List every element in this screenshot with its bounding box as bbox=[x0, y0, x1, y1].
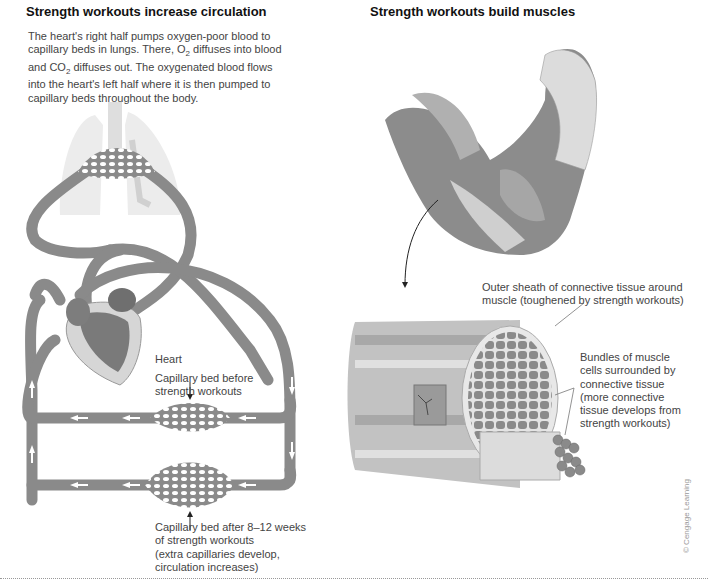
footer-dotted-rule bbox=[0, 578, 708, 579]
bundles-line-6: strength workouts) bbox=[580, 417, 681, 430]
bed-after-line-1: Capillary bed after 8–12 weeks bbox=[155, 521, 306, 534]
bundles-label: Bundles of muscle cells surrounded by co… bbox=[580, 351, 681, 431]
heart-icon bbox=[66, 288, 141, 385]
bundles-line-3: connective tissue bbox=[580, 378, 681, 391]
capillary-bed-before bbox=[150, 403, 230, 432]
bundles-line-2: cells surrounded by bbox=[580, 364, 681, 377]
capillary-bed-after bbox=[145, 463, 235, 508]
arm-muscle-icon bbox=[385, 49, 597, 255]
bed-after-label: Capillary bed after 8–12 weeks of streng… bbox=[155, 521, 306, 574]
sheath-line-2: muscle (toughened by strength workouts) bbox=[482, 294, 684, 307]
bed-before-line-1: Capillary bed before bbox=[155, 372, 253, 385]
sheath-label: Outer sheath of connective tissue around… bbox=[482, 281, 684, 308]
heart-label: Heart bbox=[155, 353, 182, 366]
bundles-line-5: tissue develops from bbox=[580, 404, 681, 417]
copyright-credit: © Cengage Learning bbox=[682, 479, 691, 553]
muscle-cross-section-icon bbox=[348, 320, 586, 488]
sheath-line-1: Outer sheath of connective tissue around bbox=[482, 281, 684, 294]
bed-before-line-2: strength workouts bbox=[155, 385, 253, 398]
bed-after-line-4: circulation increases) bbox=[155, 561, 306, 574]
bed-before-label: Capillary bed before strength workouts bbox=[155, 372, 253, 399]
bed-after-line-2: of strength workouts bbox=[155, 534, 306, 547]
bundles-line-1: Bundles of muscle bbox=[580, 351, 681, 364]
bundles-line-4: (more connective bbox=[580, 391, 681, 404]
bed-after-line-3: (extra capillaries develop, bbox=[155, 548, 306, 561]
